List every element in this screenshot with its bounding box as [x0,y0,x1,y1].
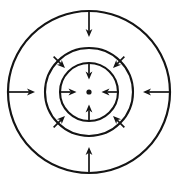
outer-right-arrow [143,89,171,96]
diagram-page [0,0,178,185]
inner-right-arrow [102,89,119,96]
concentric-field-diagram [0,0,178,185]
inner-top-arrow [86,63,93,80]
outer-bottom-arrow [86,147,93,173]
inner-bottom-arrow [86,105,93,122]
field-diagram-svg [0,0,178,185]
outer-left-arrow [7,89,35,96]
inner-left-arrow [60,89,77,96]
center-dot [86,89,91,94]
outer-top-arrow [86,11,93,37]
